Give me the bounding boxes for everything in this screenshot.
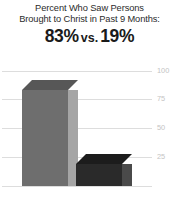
bar-83-top-face <box>22 80 78 90</box>
axis-label-25: 25 <box>157 153 177 161</box>
bar-19-side-face <box>122 164 132 186</box>
chart-title: Percent Who Saw Persons Brought to Chris… <box>0 3 179 25</box>
bar-19-top-face <box>76 154 132 164</box>
title-line-2: Brought to Christ in Past 9 Months: <box>0 14 179 25</box>
bar-19-front-face <box>76 164 122 186</box>
gridline-baseline <box>2 186 152 187</box>
bar-19-percent <box>76 154 132 186</box>
axis-label-75: 75 <box>157 95 177 103</box>
axis-label-50: 50 <box>157 124 177 132</box>
bar-chart: 100 75 50 25 <box>0 52 179 197</box>
bar-83-percent <box>22 80 78 186</box>
title-line-1: Percent Who Saw Persons <box>0 3 179 14</box>
gridline-100 <box>2 71 152 72</box>
infographic-panel: Percent Who Saw Persons Brought to Chris… <box>0 0 179 197</box>
stat-value-a: 83% <box>45 26 79 46</box>
stat-separator: vs. <box>79 31 100 45</box>
stat-value-b: 19% <box>100 26 134 46</box>
stat-comparison: 83%vs.19% <box>0 26 179 47</box>
axis-label-100: 100 <box>157 67 177 75</box>
bar-83-front-face <box>22 90 68 186</box>
